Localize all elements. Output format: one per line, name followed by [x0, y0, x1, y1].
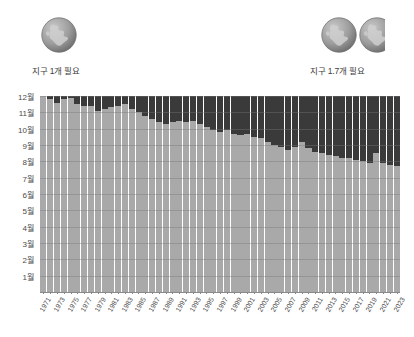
bar[interactable] — [156, 96, 162, 292]
bar[interactable] — [197, 96, 203, 292]
bar[interactable] — [176, 96, 182, 292]
bar[interactable] — [142, 96, 148, 292]
bar[interactable] — [47, 96, 53, 292]
x-axis-tick-label: 1985 — [134, 296, 148, 313]
bar-segment-overshoot — [170, 96, 176, 122]
bar-segment-overshoot — [333, 96, 339, 156]
bar[interactable] — [258, 96, 264, 292]
bar[interactable] — [204, 96, 210, 292]
bar[interactable] — [292, 96, 298, 292]
y-axis-tick-label: 3월 — [23, 238, 34, 249]
bar[interactable] — [285, 96, 291, 292]
bar-segment-within-budget — [244, 134, 250, 292]
bar-segment-overshoot — [156, 96, 162, 122]
bar[interactable] — [271, 96, 277, 292]
bar[interactable] — [373, 96, 379, 292]
bar[interactable] — [68, 96, 74, 292]
bar[interactable] — [339, 96, 345, 292]
bar[interactable] — [312, 96, 318, 292]
bar[interactable] — [40, 96, 46, 292]
bar[interactable] — [380, 96, 386, 292]
bar-segment-overshoot — [278, 96, 284, 147]
x-axis-tick-label: 2003 — [256, 296, 270, 313]
bar[interactable] — [163, 96, 169, 292]
bar-segment-within-budget — [360, 161, 366, 292]
bar[interactable] — [353, 96, 359, 292]
bar[interactable] — [265, 96, 271, 292]
bar[interactable] — [190, 96, 196, 292]
bar[interactable] — [217, 96, 223, 292]
bar-segment-overshoot — [163, 96, 169, 124]
bar-segment-within-budget — [204, 127, 210, 292]
bar[interactable] — [224, 96, 230, 292]
bar-segment-overshoot — [285, 96, 291, 150]
bar-segment-overshoot — [326, 96, 332, 155]
x-axis-tick-label: 1987 — [147, 296, 161, 313]
bar-segment-within-budget — [231, 134, 237, 292]
bar[interactable] — [360, 96, 366, 292]
bar-segment-overshoot — [346, 96, 352, 158]
x-axis-tick-label: 1989 — [161, 296, 175, 313]
bar-segment-overshoot — [265, 96, 271, 142]
bar-segment-overshoot — [305, 96, 311, 148]
bar[interactable] — [170, 96, 176, 292]
bar[interactable] — [183, 96, 189, 292]
bar-segment-within-budget — [149, 119, 155, 292]
bar[interactable] — [251, 96, 257, 292]
bar[interactable] — [210, 96, 216, 292]
bar[interactable] — [299, 96, 305, 292]
bar[interactable] — [136, 96, 142, 292]
bar-segment-overshoot — [95, 96, 101, 111]
x-axis-tick-label: 1979 — [93, 296, 107, 313]
bar[interactable] — [244, 96, 250, 292]
bar[interactable] — [115, 96, 121, 292]
bar-segment-within-budget — [265, 142, 271, 292]
y-axis-tick-label: 5월 — [23, 205, 34, 216]
bar-segment-within-budget — [170, 122, 176, 292]
bar-segment-within-budget — [333, 156, 339, 292]
bar[interactable] — [394, 96, 400, 292]
bar-segment-within-budget — [319, 153, 325, 292]
bar-segment-within-budget — [61, 99, 67, 292]
bar[interactable] — [74, 96, 80, 292]
bar-segment-overshoot — [271, 96, 277, 145]
bar[interactable] — [333, 96, 339, 292]
bar[interactable] — [108, 96, 114, 292]
bar-segment-overshoot — [190, 96, 196, 121]
bar[interactable] — [346, 96, 352, 292]
bar[interactable] — [54, 96, 60, 292]
chart-header: 지구 1개 필요 지구 1.7개 필요 — [0, 0, 414, 92]
bar[interactable] — [319, 96, 325, 292]
x-axis-tick-label: 1983 — [120, 296, 134, 313]
bar[interactable] — [88, 96, 94, 292]
bar[interactable] — [95, 96, 101, 292]
bar[interactable] — [149, 96, 155, 292]
bar[interactable] — [367, 96, 373, 292]
x-axis-tick-label: 1993 — [188, 296, 202, 313]
x-axis-tick-label: 1977 — [79, 296, 93, 313]
bar-segment-within-budget — [367, 163, 373, 292]
bar[interactable] — [278, 96, 284, 292]
bar[interactable] — [129, 96, 135, 292]
bar-segment-overshoot — [394, 96, 400, 166]
bar-segment-overshoot — [197, 96, 203, 124]
bar[interactable] — [231, 96, 237, 292]
bar[interactable] — [122, 96, 128, 292]
y-axis-tick-label: 4월 — [23, 221, 34, 232]
y-axis-tick-label: 2월 — [23, 254, 34, 265]
bar[interactable] — [237, 96, 243, 292]
bar-segment-overshoot — [367, 96, 373, 163]
bar[interactable] — [387, 96, 393, 292]
bar-segment-overshoot — [88, 96, 94, 106]
x-axis-tick-label: 1975 — [66, 296, 80, 313]
bar-segment-overshoot — [204, 96, 210, 127]
bar[interactable] — [61, 96, 67, 292]
bar-segment-within-budget — [258, 138, 264, 292]
bar[interactable] — [305, 96, 311, 292]
bar-segment-overshoot — [210, 96, 216, 130]
bar[interactable] — [102, 96, 108, 292]
bar-segment-within-budget — [326, 155, 332, 292]
x-axis-tick-label: 2011 — [311, 296, 325, 313]
bar[interactable] — [326, 96, 332, 292]
bar[interactable] — [81, 96, 87, 292]
